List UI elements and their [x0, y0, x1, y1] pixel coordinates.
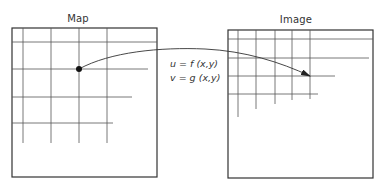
image-title: Image: [280, 14, 312, 25]
mapping-diagram: [0, 0, 384, 186]
map-point: [76, 66, 82, 72]
equation-u: u = f (x,y): [170, 58, 218, 69]
map-grid: [12, 28, 157, 177]
image-grid: [228, 30, 373, 178]
map-title: Map: [67, 13, 89, 24]
image-frame: [228, 30, 373, 178]
map-frame: [12, 28, 157, 177]
equation-v: v = g (x,y): [170, 72, 220, 83]
